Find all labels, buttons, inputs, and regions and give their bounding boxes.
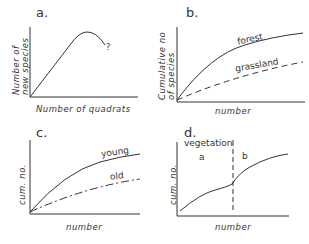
- panel-d: d. vegetation a b cum. no. number: [155, 122, 309, 244]
- region-label-b: b: [242, 151, 248, 161]
- panel-b: b. forest grassland Cumulative noof spec…: [155, 0, 309, 122]
- cumulative-species-plot: [155, 0, 309, 122]
- region-title: vegetation: [184, 138, 232, 148]
- x-axis-label: number: [215, 106, 251, 116]
- y-axis-label: cum. no.: [169, 164, 178, 205]
- panel-c: c. young old cum. no. number: [0, 122, 155, 244]
- panel-a: a. ? Number ofnew species Number of quad…: [0, 0, 155, 122]
- y-axis-label: Number ofnew species: [12, 37, 30, 95]
- x-axis-label: Number of quadrats: [36, 104, 131, 114]
- x-axis-label: number: [66, 222, 102, 232]
- x-axis-label: number: [215, 222, 251, 232]
- y-axis-label: cum. no.: [18, 164, 27, 205]
- region-label-a: a: [199, 152, 205, 162]
- series-label-old: old: [110, 170, 125, 181]
- question-annotation: ?: [106, 43, 110, 52]
- y-axis-label: Cumulative noof species: [158, 32, 176, 100]
